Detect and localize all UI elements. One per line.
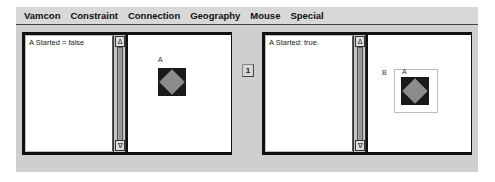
diamond-icon bbox=[402, 78, 427, 103]
scroll-up-arrow-icon[interactable]: Δ bbox=[115, 36, 125, 47]
scroll-track[interactable] bbox=[117, 47, 123, 142]
left-log-pane[interactable]: A Started = false bbox=[26, 36, 113, 151]
right-log-pane[interactable]: A Started: true. bbox=[266, 36, 353, 151]
right-frame: A Started: true. Δ ∇ B A bbox=[262, 32, 472, 155]
group-b-label: B bbox=[382, 69, 387, 76]
diamond-icon bbox=[159, 69, 184, 94]
menu-mouse[interactable]: Mouse bbox=[250, 10, 280, 21]
node-a-label: A bbox=[402, 68, 407, 75]
menu-constraint[interactable]: Constraint bbox=[70, 10, 118, 21]
left-canvas[interactable]: A bbox=[126, 35, 231, 152]
node-a[interactable] bbox=[401, 77, 429, 105]
node-a-label: A bbox=[158, 56, 163, 63]
app-window: Vamcon Constraint Connection Geography M… bbox=[16, 7, 478, 172]
log-line: A Started: true. bbox=[266, 36, 352, 47]
right-canvas[interactable]: B A bbox=[366, 35, 471, 152]
scroll-down-arrow-icon[interactable]: ∇ bbox=[115, 140, 125, 151]
left-frame: A Started = false Δ ∇ A bbox=[22, 32, 232, 155]
left-scrollbar[interactable]: Δ ∇ bbox=[113, 35, 126, 152]
menu-geography[interactable]: Geography bbox=[190, 10, 240, 21]
step-button[interactable]: 1 bbox=[242, 64, 254, 77]
menu-connection[interactable]: Connection bbox=[128, 10, 180, 21]
menu-special[interactable]: Special bbox=[290, 10, 323, 21]
scroll-up-arrow-icon[interactable]: Δ bbox=[355, 36, 365, 47]
menu-vamcon[interactable]: Vamcon bbox=[24, 10, 60, 21]
log-line: A Started = false bbox=[26, 36, 112, 47]
node-a[interactable] bbox=[158, 68, 186, 96]
menu-bar: Vamcon Constraint Connection Geography M… bbox=[16, 7, 478, 25]
scroll-track[interactable] bbox=[357, 47, 363, 142]
right-scrollbar[interactable]: Δ ∇ bbox=[353, 35, 366, 152]
scroll-down-arrow-icon[interactable]: ∇ bbox=[355, 140, 365, 151]
